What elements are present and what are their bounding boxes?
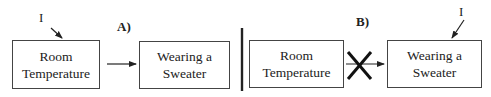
diagram-connectors: [0, 0, 491, 97]
panel-b-intervention-arrow-icon: [452, 20, 464, 38]
panel-a-intervention-arrow-icon: [51, 28, 62, 38]
cross-x-icon: [348, 52, 371, 79]
